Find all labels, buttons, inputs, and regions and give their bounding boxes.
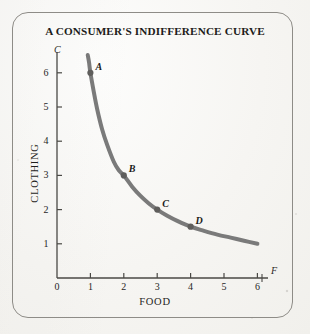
y-axis-symbol: C (54, 44, 61, 55)
point-label-D: D (196, 215, 203, 226)
y-tick-label-2: 2 (39, 204, 53, 215)
axes-group (57, 52, 268, 282)
x-tick-label-3: 3 (150, 281, 164, 292)
y-tick-label-6: 6 (39, 67, 53, 78)
y-axis-ticks (57, 73, 62, 244)
x-tick-label-2: 2 (117, 281, 131, 292)
data-point-A (87, 70, 93, 76)
x-axis-symbol: F (271, 265, 277, 276)
point-label-B: B (129, 163, 136, 174)
y-tick-label-3: 3 (39, 169, 53, 180)
x-tick-label-1: 1 (83, 281, 97, 292)
x-axis-ticks (90, 273, 257, 278)
x-tick-label-0: 0 (50, 281, 64, 292)
y-tick-label-4: 4 (39, 135, 53, 146)
data-point-B (121, 172, 127, 178)
y-tick-label-1: 1 (39, 238, 53, 249)
point-label-C: C (162, 198, 169, 209)
x-tick-label-4: 4 (184, 281, 198, 292)
x-axis-title: FOOD (0, 296, 310, 307)
data-point-C (154, 207, 160, 213)
indifference-curve-figure: A CONSUMER'S INDIFFERENCE CURVE C F FOOD… (0, 0, 310, 334)
point-label-A: A (95, 61, 102, 72)
y-tick-label-5: 5 (39, 101, 53, 112)
indifference-curve-path (88, 55, 258, 244)
x-tick-label-5: 5 (217, 281, 231, 292)
data-point-D (188, 224, 194, 230)
x-tick-label-6: 6 (250, 281, 264, 292)
data-point-markers (87, 70, 193, 230)
